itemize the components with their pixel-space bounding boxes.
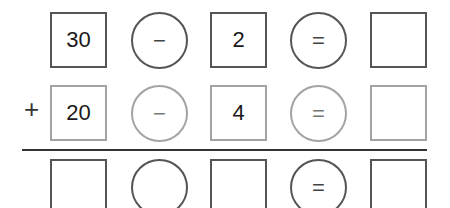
minus-icon: − <box>153 103 166 125</box>
row1-value-2: 2 <box>232 27 244 53</box>
row2-answer-box[interactable] <box>370 85 427 141</box>
row3-operator-circle-1[interactable] <box>131 159 188 208</box>
row2-number-box-1[interactable]: 20 <box>50 85 107 141</box>
plus-icon: + <box>24 96 39 122</box>
row3-number-box-2[interactable] <box>210 159 267 208</box>
row3-number-box-1[interactable] <box>50 159 107 208</box>
equals-icon: = <box>312 177 325 199</box>
row2-operator-circle-1[interactable]: − <box>131 85 188 142</box>
row1-operator-circle-2[interactable]: = <box>290 12 347 69</box>
row3-operator-circle-2[interactable]: = <box>290 159 347 208</box>
row3-answer-box[interactable] <box>370 159 427 208</box>
row2-value-1: 20 <box>66 100 90 126</box>
sum-divider-line <box>22 149 427 151</box>
row2-number-box-2[interactable]: 4 <box>210 85 267 141</box>
equals-icon: = <box>312 30 325 52</box>
row1-number-box-2[interactable]: 2 <box>210 12 267 68</box>
row1-value-1: 30 <box>66 27 90 53</box>
minus-icon: − <box>153 30 166 52</box>
row1-answer-box[interactable] <box>370 12 427 68</box>
row2-value-2: 4 <box>232 100 244 126</box>
row1-operator-circle-1[interactable]: − <box>131 12 188 69</box>
equals-icon: = <box>312 103 325 125</box>
row2-operator-circle-2[interactable]: = <box>290 85 347 142</box>
row1-number-box-1[interactable]: 30 <box>50 12 107 68</box>
